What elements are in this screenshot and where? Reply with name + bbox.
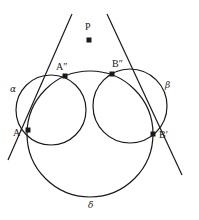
point-a-prime xyxy=(26,128,31,133)
diagram-svg: P A″ B″ A′ B′ α β δ xyxy=(0,0,199,220)
label-p: P xyxy=(85,21,91,32)
label-a-prime: A′ xyxy=(13,127,22,138)
circle-delta xyxy=(27,71,153,197)
point-p xyxy=(87,38,92,43)
line-through-a-points xyxy=(8,14,72,160)
point-a-double-prime xyxy=(63,74,68,79)
label-b-prime: B′ xyxy=(159,129,168,140)
label-delta: δ xyxy=(88,200,93,210)
circle-beta xyxy=(93,69,167,143)
label-a-double-prime: A″ xyxy=(56,61,67,72)
label-beta: β xyxy=(164,80,170,90)
point-b-prime xyxy=(151,132,156,137)
point-b-double-prime xyxy=(110,72,115,77)
label-b-double-prime: B″ xyxy=(112,58,123,69)
line-through-b-points xyxy=(107,14,182,175)
label-alpha: α xyxy=(10,84,16,94)
geometry-diagram: P A″ B″ A′ B′ α β δ xyxy=(0,0,199,220)
